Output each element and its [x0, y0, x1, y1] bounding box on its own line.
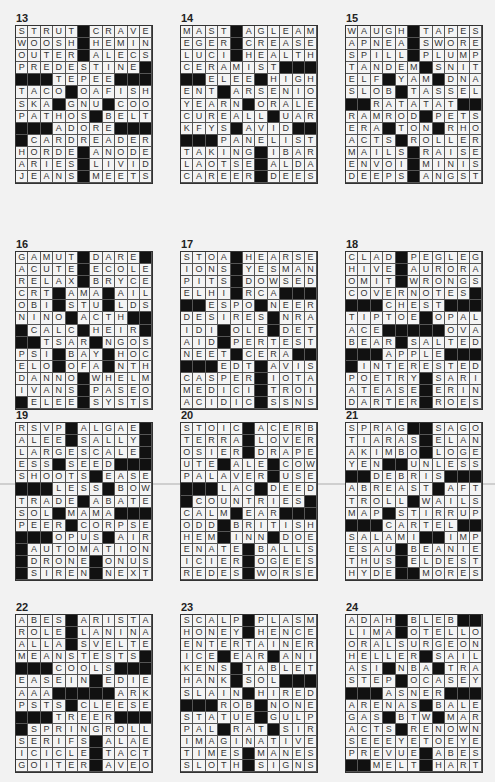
letter-cell: L [280, 663, 292, 675]
letter-cell: A [16, 639, 28, 651]
letter-cell: C [358, 135, 370, 147]
letter-cell: F [193, 123, 205, 135]
letter-cell: N [371, 62, 383, 74]
letter-cell: I [408, 532, 420, 544]
letter-cell: S [218, 663, 230, 675]
black-square [16, 712, 28, 724]
letter-cell: G [268, 712, 280, 724]
letter-cell: E [103, 38, 115, 50]
black-square [470, 349, 482, 361]
letter-cell: N [53, 651, 65, 663]
letter-cell: E [231, 373, 243, 385]
letter-cell: A [231, 86, 243, 98]
letter-cell: T [445, 361, 457, 373]
letter-cell: H [268, 74, 280, 86]
letter-cell: I [396, 159, 408, 171]
letter-cell: E [445, 736, 457, 748]
black-square [41, 532, 53, 544]
letter-cell: E [408, 748, 420, 760]
black-square [255, 712, 267, 724]
letter-cell: E [305, 532, 317, 544]
letter-cell: O [396, 312, 408, 324]
letter-cell: G [16, 252, 28, 264]
puzzle-number: 18 [346, 237, 495, 251]
black-square [90, 111, 102, 123]
letter-cell: A [103, 447, 115, 459]
letter-cell: I [128, 675, 140, 687]
black-square [433, 123, 445, 135]
letter-cell: L [193, 688, 205, 700]
letter-cell: P [445, 26, 457, 38]
letter-cell: G [433, 252, 445, 264]
letter-cell: R [305, 147, 317, 159]
letter-cell: N [53, 373, 65, 385]
letter-cell: L [433, 337, 445, 349]
letter-cell: E [371, 736, 383, 748]
letter-cell: E [371, 325, 383, 337]
letter-cell: O [128, 349, 140, 361]
letter-cell: S [218, 276, 230, 288]
letter-cell: L [206, 724, 218, 736]
black-square [128, 663, 140, 675]
letter-cell: A [41, 135, 53, 147]
black-square [78, 373, 90, 385]
letter-cell: A [383, 627, 395, 639]
letter-cell: T [396, 123, 408, 135]
letter-cell: U [90, 300, 102, 312]
letter-cell: A [305, 159, 317, 171]
letter-cell: E [358, 736, 370, 748]
crossword-grid: ADAHBLEBLIMAOTELLOORALSURGEONHELLERSAILA… [345, 614, 483, 773]
letter-cell: M [140, 373, 152, 385]
letter-cell: E [206, 651, 218, 663]
black-square [16, 568, 28, 580]
black-square [255, 483, 267, 495]
letter-cell: C [28, 264, 40, 276]
letter-cell: E [115, 171, 127, 183]
letter-cell: N [128, 627, 140, 639]
letter-cell: N [243, 532, 255, 544]
letter-cell: E [90, 135, 102, 147]
black-square [346, 520, 358, 532]
black-square [78, 276, 90, 288]
letter-cell: R [420, 147, 432, 159]
black-square [346, 300, 358, 312]
letter-cell: I [41, 760, 53, 772]
letter-cell: C [231, 423, 243, 435]
letter-cell: O [66, 111, 78, 123]
letter-cell: E [243, 159, 255, 171]
letter-cell: S [231, 748, 243, 760]
letter-cell: P [181, 471, 193, 483]
letter-cell: M [408, 62, 420, 74]
letter-cell: M [78, 544, 90, 556]
letter-cell: S [53, 38, 65, 50]
black-square [66, 615, 78, 627]
letter-cell: M [445, 712, 457, 724]
black-square [445, 349, 457, 361]
crossword-grid: GAMUTDAREACUTEECOLERELAXBRYCECRTAMAAILOB… [15, 251, 153, 410]
letter-cell: E [140, 496, 152, 508]
letter-cell: A [458, 312, 470, 324]
letter-cell: I [193, 748, 205, 760]
letter-cell: A [41, 325, 53, 337]
crossword-grid: STRUTCRAVEWOOSHHEMINOUTERALECSPREDESTINE… [15, 25, 153, 184]
letter-cell: N [293, 651, 305, 663]
letter-cell: D [193, 325, 205, 337]
black-square [231, 252, 243, 264]
black-square [66, 700, 78, 712]
letter-cell: I [41, 349, 53, 361]
puzzle-number: 19 [16, 408, 167, 422]
letter-cell: E [293, 483, 305, 495]
letter-cell: S [140, 50, 152, 62]
crossword-grid: STOICACERBTERRALOVEROSIERDRAPEUTEALECOWP… [180, 422, 318, 581]
letter-cell: L [181, 159, 193, 171]
letter-cell: S [66, 171, 78, 183]
letter-cell: N [103, 147, 115, 159]
letter-cell: T [103, 312, 115, 324]
letter-cell: E [41, 615, 53, 627]
letter-cell: B [90, 276, 102, 288]
letter-cell: N [470, 385, 482, 397]
letter-cell: W [420, 712, 432, 724]
letter-cell: D [181, 312, 193, 324]
letter-cell: T [53, 544, 65, 556]
letter-cell: A [383, 688, 395, 700]
